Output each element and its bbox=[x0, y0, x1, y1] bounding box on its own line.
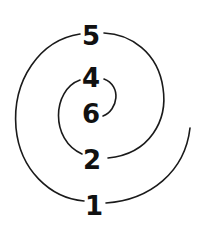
node-label-2: 2 bbox=[83, 145, 101, 175]
arc-2-to-5 bbox=[104, 33, 164, 158]
arc-6-to-4 bbox=[103, 79, 116, 116]
node-label-5: 5 bbox=[82, 21, 100, 51]
node-label-6: 6 bbox=[82, 99, 100, 129]
node-label-4: 4 bbox=[82, 63, 100, 93]
arc-5-to-1 bbox=[16, 34, 84, 201]
node-label-1: 1 bbox=[85, 191, 103, 221]
arc-4-to-2 bbox=[59, 80, 83, 154]
spiral-diagram: 5 4 6 2 1 bbox=[0, 0, 201, 233]
